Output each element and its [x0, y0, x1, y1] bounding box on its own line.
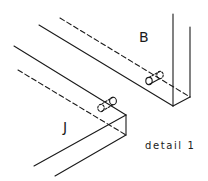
panel-b [39, 14, 190, 106]
panel-j-top-edge [14, 46, 126, 115]
dowel-b-icon [146, 71, 163, 84]
part-label-j: J [62, 119, 67, 135]
panel-j [14, 46, 126, 176]
detail-caption: detail 1 [145, 140, 195, 151]
panel-j-front-edge [34, 115, 126, 166]
panel-b-hidden-edge [60, 18, 190, 97]
panel-b-top-edge [39, 25, 173, 106]
part-label-b: B [139, 29, 149, 45]
joint-detail-diagram: B J detail 1 [0, 0, 208, 181]
panel-j-lower-edge [55, 135, 126, 176]
panel-b-bottom-edge [173, 97, 190, 106]
